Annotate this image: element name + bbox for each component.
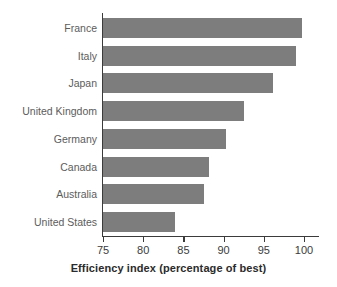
x-tick-label: 100 <box>295 244 313 256</box>
x-tick-mark <box>183 237 184 242</box>
x-tick-mark <box>264 237 265 242</box>
x-tick-mark <box>304 237 305 242</box>
x-tick-mark <box>143 237 144 242</box>
x-tick-label: 90 <box>217 244 229 256</box>
x-axis-ticks: 7580859095100 <box>0 0 337 287</box>
x-tick-label: 95 <box>258 244 270 256</box>
x-tick-label: 80 <box>137 244 149 256</box>
x-tick-label: 75 <box>97 244 109 256</box>
x-tick-mark <box>224 237 225 242</box>
x-axis-title: Efficiency index (percentage of best) <box>0 262 337 274</box>
x-tick-mark <box>103 237 104 242</box>
bar-chart: FranceItalyJapanUnited KingdomGermanyCan… <box>0 0 337 287</box>
x-tick-label: 85 <box>177 244 189 256</box>
